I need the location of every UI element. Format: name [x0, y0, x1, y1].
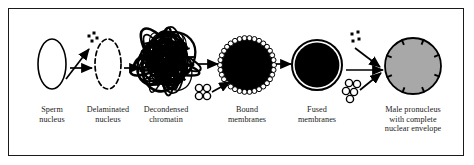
dot-cluster-pronucleus-dot [358, 38, 361, 41]
cluster-vesicle-cluster-bound [195, 84, 210, 99]
arrow-dots-to-pronucleus [355, 48, 380, 67]
figure-container: Sperm nucleusDelaminated nucleusDeconden… [0, 0, 474, 165]
bound-membranes-vesicle [237, 37, 242, 42]
arrow-vesicles-to-pronucleus [360, 73, 381, 90]
stage-decondensed-chromatin [126, 22, 205, 96]
bound-membranes-vesicle [242, 36, 247, 41]
stage-delaminated-nucleus [95, 39, 121, 89]
stage-sperm-nucleus [38, 39, 66, 89]
dot-cluster-delaminated-dot [93, 32, 96, 35]
dot-cluster-delaminated-dot [88, 35, 91, 38]
bound-membranes-vesicle [242, 89, 247, 94]
cluster-dot-cluster-delaminated [88, 32, 99, 43]
vesicle-cluster-bound-vesicle [203, 92, 210, 99]
vesicle-cluster-pronucleus-vesicle [353, 80, 360, 87]
diagram-canvas [0, 0, 474, 165]
stage-bound-membranes [218, 36, 277, 95]
dot-cluster-pronucleus-dot [357, 31, 360, 34]
vesicle-cluster-pronucleus-vesicle [345, 79, 352, 86]
arrow-dots-to-delaminated [66, 49, 89, 79]
bound-membranes-vesicle [218, 58, 223, 63]
bound-membranes-vesicle [271, 58, 276, 63]
stage-male-pronucleus [385, 38, 441, 94]
bound-membranes-vesicle [271, 67, 276, 72]
vesicle-cluster-pronucleus-vesicle [342, 87, 349, 94]
bound-membranes-vesicle [272, 63, 277, 68]
bound-membranes-vesicle [219, 72, 224, 77]
arrow-vesicles-to-bound [212, 82, 230, 92]
dot-cluster-pronucleus-dot [352, 40, 355, 43]
bound-membranes-vesicle [247, 89, 252, 94]
bound-membranes-vesicle [218, 67, 223, 72]
stage-fused-membranes [292, 40, 342, 90]
vesicle-cluster-bound-vesicle [195, 84, 202, 91]
male-pronucleus-disc [385, 38, 441, 94]
vesicle-cluster-bound-vesicle [195, 92, 202, 99]
sperm-nucleus-ellipse [38, 39, 66, 89]
fused-membranes-disc [295, 43, 340, 88]
dot-cluster-delaminated-dot [91, 40, 94, 43]
bound-membranes-vesicle [252, 88, 257, 93]
cluster-dot-cluster-pronucleus [351, 31, 361, 43]
bound-membranes-vesicle [270, 53, 275, 58]
vesicle-cluster-pronucleus-vesicle [350, 88, 357, 95]
bound-membranes-vesicle [218, 63, 223, 68]
dot-cluster-delaminated-dot [96, 37, 99, 40]
vesicle-cluster-bound-vesicle [203, 84, 210, 91]
delaminated-nucleus-ellipse [95, 39, 121, 89]
cluster-vesicle-cluster-pronucleus [342, 79, 360, 102]
bound-membranes-vesicle [247, 36, 252, 41]
vesicle-cluster-pronucleus-vesicle [346, 95, 353, 102]
dot-cluster-pronucleus-dot [351, 33, 354, 36]
